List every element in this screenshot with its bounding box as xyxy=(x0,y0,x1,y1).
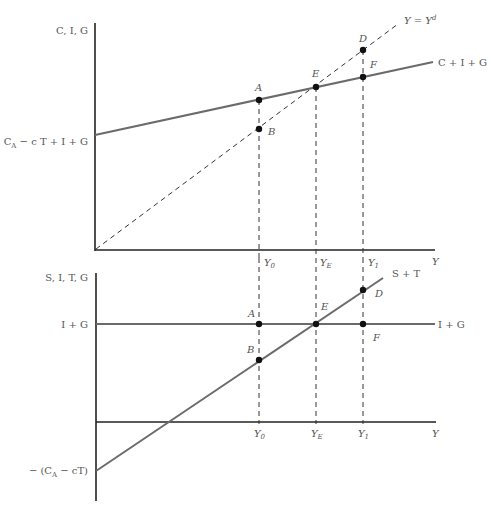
bottom-point-f xyxy=(360,321,366,327)
bottom-intercept-label: − (CA − cT) xyxy=(29,465,88,479)
top-panel: A B E D F C, I, G Y CA − c T + I + G C +… xyxy=(4,14,487,270)
top-label-e: E xyxy=(311,68,320,79)
injections-right-label: I + G xyxy=(438,319,465,330)
bottom-tick-y1: Y1 xyxy=(358,428,369,441)
top-y-axis-label: C, I, G xyxy=(56,25,88,36)
bottom-tick-y0: Y0 xyxy=(254,428,266,441)
bottom-point-b xyxy=(256,357,262,363)
top-label-d: D xyxy=(358,33,367,44)
bottom-tick-ye: YE xyxy=(311,428,323,441)
top-label-a: A xyxy=(254,82,262,93)
top-point-e xyxy=(313,84,319,90)
bottom-x-axis-label: Y xyxy=(432,428,440,439)
top-label-f: F xyxy=(369,59,378,70)
bottom-point-e xyxy=(313,321,319,327)
bottom-point-d xyxy=(360,287,366,293)
forty-five-line-label: Y = Yd xyxy=(404,14,437,26)
savings-taxes-line xyxy=(96,278,383,471)
top-label-b: B xyxy=(267,126,275,137)
savings-taxes-label: S + T xyxy=(392,268,421,279)
forty-five-degree-line xyxy=(96,24,398,249)
top-tick-y1: Y1 xyxy=(368,257,379,270)
bottom-label-e: E xyxy=(320,301,329,312)
bottom-injections-left-label: I + G xyxy=(61,319,88,330)
keynesian-cross-diagram: A B E D F C, I, G Y CA − c T + I + G C +… xyxy=(0,0,491,512)
top-point-d xyxy=(360,47,366,53)
top-tick-ye: YE xyxy=(320,257,332,270)
top-point-f xyxy=(360,74,366,80)
top-x-axis-label: Y xyxy=(432,256,440,267)
bottom-label-d: D xyxy=(374,288,383,299)
aggregate-demand-label: C + I + G xyxy=(438,57,487,68)
bottom-point-a xyxy=(256,321,262,327)
top-tick-y0: Y0 xyxy=(264,257,276,270)
bottom-panel: A B E D F S, I, T, G Y I + G − (CA − cT)… xyxy=(29,258,465,501)
top-point-a xyxy=(256,97,262,103)
bottom-y-axis-label: S, I, T, G xyxy=(45,272,88,283)
top-intercept-label: CA − c T + I + G xyxy=(4,136,88,150)
top-point-b xyxy=(256,126,262,132)
bottom-label-f: F xyxy=(372,332,381,343)
bottom-label-b: B xyxy=(246,344,254,355)
bottom-label-a: A xyxy=(247,308,255,319)
